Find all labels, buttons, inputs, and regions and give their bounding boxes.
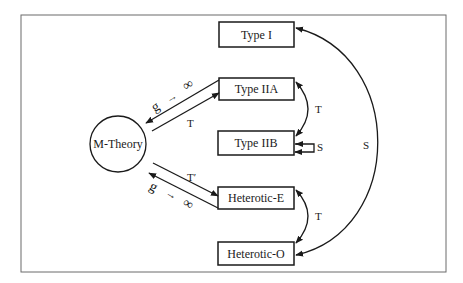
type-i-label: Type I	[219, 29, 294, 41]
t-label-het: T	[315, 211, 322, 222]
string-duality-diagram: M-Theory Type I Type IIA Type IIB Hetero…	[0, 0, 463, 283]
m-theory-label: M-Theory	[90, 138, 146, 150]
heterotic-e-label: Heterotic-E	[218, 192, 294, 204]
heterotic-o-label: Heterotic-O	[218, 248, 294, 260]
edge-hete-heto-t	[296, 190, 308, 243]
type-iib-label: Type IIB	[218, 137, 294, 149]
t-label-iia: T	[187, 118, 194, 129]
edge-iib-self-s	[295, 144, 314, 152]
s-label-iib-self: S	[317, 142, 323, 153]
s-label-typei-heto: S	[363, 140, 369, 151]
t-label-iia-iib: T	[315, 104, 322, 115]
t-prime-label: T′	[187, 172, 196, 183]
edge-iia-iib-t	[296, 82, 308, 136]
edge-m-to-iia	[152, 93, 219, 131]
type-iia-label: Type IIA	[219, 83, 294, 95]
